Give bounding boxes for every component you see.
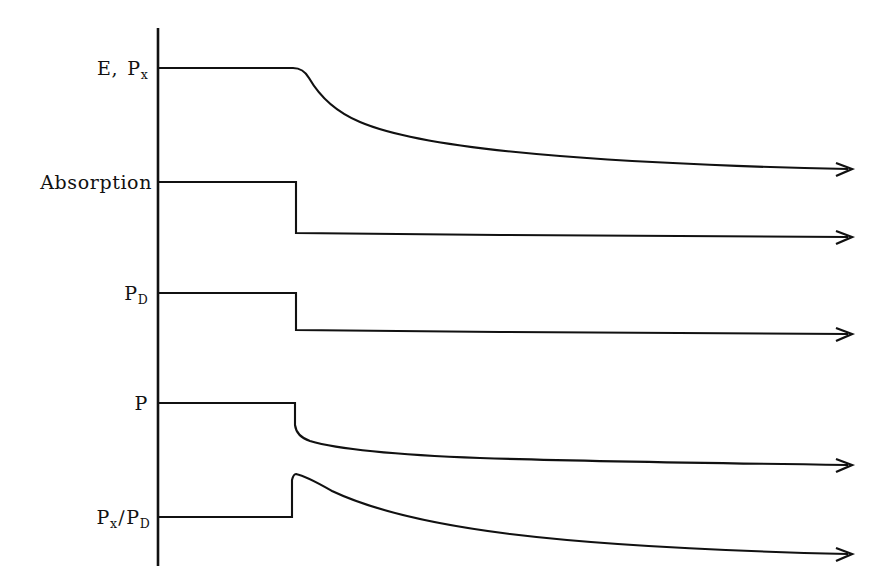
label-text-absorption: Absorption xyxy=(40,171,152,193)
trace-label-e-px: E, Px xyxy=(97,59,148,78)
trace-px-over-pd xyxy=(159,474,848,554)
trace-p xyxy=(159,403,848,465)
label-subscript-x: x xyxy=(141,67,148,82)
label-text-p-denominator: P xyxy=(126,506,139,528)
trace-label-px-over-pd: Px∕PD xyxy=(97,508,150,527)
label-text-p-numerator: P xyxy=(97,506,110,528)
label-slash: ∕ xyxy=(117,506,126,528)
label-sep-e-px: , xyxy=(112,57,121,79)
trace-pd xyxy=(159,293,848,334)
figure-root: E, Px Absorption PD P Px∕PD xyxy=(0,0,883,587)
label-subscript-d: D xyxy=(138,292,148,307)
label-text-p: P xyxy=(127,57,140,79)
label-text-p: P xyxy=(135,392,148,414)
label-text-e: E xyxy=(97,57,111,79)
trace-absorption xyxy=(159,182,848,237)
label-subscript-x: x xyxy=(110,516,117,531)
trace-label-pd: PD xyxy=(124,284,148,303)
trace-label-p: P xyxy=(135,394,148,413)
label-subscript-d: D xyxy=(140,516,150,531)
trace-label-absorption: Absorption xyxy=(40,173,152,192)
label-text-p: P xyxy=(124,282,137,304)
trace-e-px xyxy=(159,68,848,169)
